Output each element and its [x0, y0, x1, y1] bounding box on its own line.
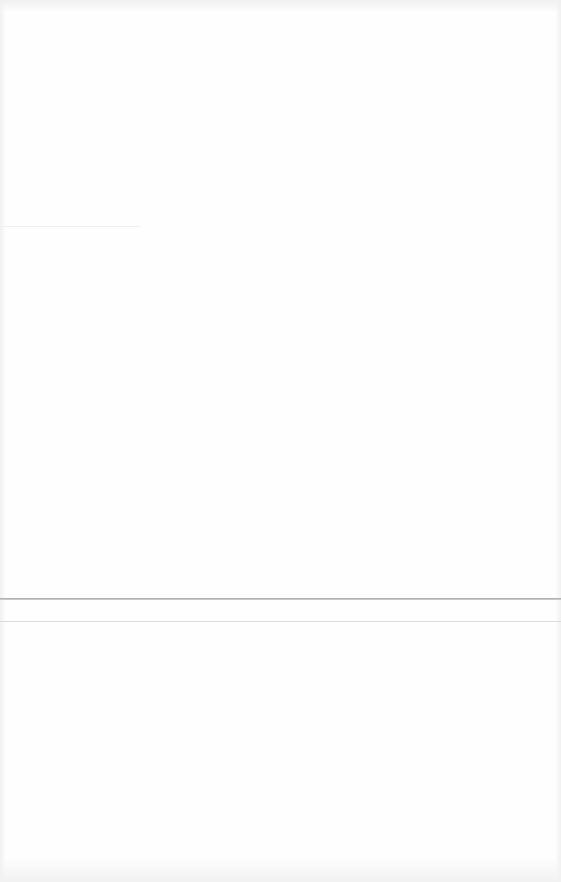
- scan-edge-bottom: [0, 858, 561, 882]
- horizontal-rule-secondary: [0, 621, 561, 622]
- blank-document-page: [0, 0, 561, 882]
- scan-edge-left: [0, 0, 6, 882]
- scan-edge-right: [555, 0, 561, 882]
- faint-mark: [0, 226, 140, 227]
- scan-edge-top: [0, 0, 561, 12]
- horizontal-rule-primary: [0, 598, 561, 600]
